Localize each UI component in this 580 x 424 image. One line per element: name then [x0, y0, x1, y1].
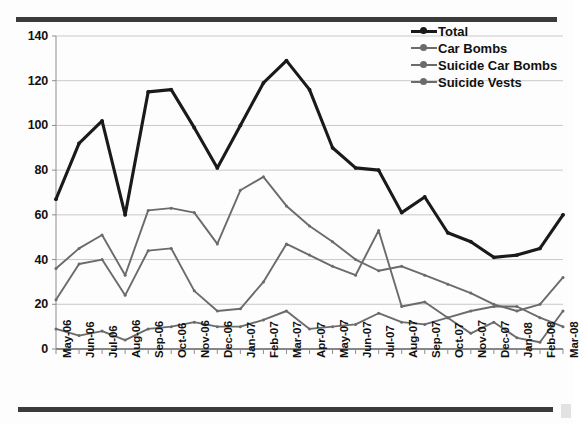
x-axis-tick-jan-08: Jan-08: [522, 322, 534, 358]
legend-label: Suicide Vests: [438, 76, 522, 89]
legend-item-suicide-car-bombs[interactable]: Suicide Car Bombs: [411, 57, 557, 73]
series-line-suicide-car-bombs: [55, 229, 565, 328]
x-axis-tick-oct-07: Oct-07: [453, 323, 465, 358]
legend-swatch-icon: [411, 25, 437, 37]
x-axis-tick-aug-06: Aug-06: [130, 320, 142, 358]
y-axis-tick-100: 100: [14, 118, 48, 132]
x-axis-tick-nov-07: Nov-07: [476, 320, 488, 358]
x-axis-tick-oct-06: Oct-06: [176, 323, 188, 358]
y-axis-tick-0: 0: [14, 342, 48, 356]
legend-item-car-bombs[interactable]: Car Bombs: [411, 40, 557, 56]
x-axis-tick-jun-07: Jun-07: [361, 322, 373, 358]
legend-label: Car Bombs: [438, 42, 507, 55]
legend-swatch-icon: [411, 42, 437, 54]
x-axis-tick-may-07: May-07: [338, 320, 350, 358]
x-axis-tick-apr-07: Apr-07: [315, 322, 327, 358]
legend-swatch-icon: [411, 76, 437, 88]
series-line-car-bombs: [55, 175, 565, 312]
legend-label: Suicide Car Bombs: [438, 59, 557, 72]
y-axis-tick-40: 40: [14, 253, 48, 267]
y-axis-tick-60: 60: [14, 208, 48, 222]
legend-label: Total: [438, 25, 468, 38]
y-axis-tick-140: 140: [14, 29, 48, 43]
chart-legend: TotalCar BombsSuicide Car BombsSuicide V…: [411, 23, 557, 90]
x-axis-tick-jun-06: Jun-06: [84, 322, 96, 358]
y-axis-tick-80: 80: [14, 163, 48, 177]
x-axis-tick-feb-08: Feb-08: [545, 322, 557, 358]
x-axis-tick-sep-07: Sep-07: [430, 321, 442, 358]
legend-item-suicide-vests[interactable]: Suicide Vests: [411, 74, 557, 90]
x-axis-tick-jul-06: Jul-06: [107, 325, 119, 358]
x-axis-tick-nov-06: Nov-06: [199, 320, 211, 358]
x-axis-tick-jul-07: Jul-07: [384, 325, 396, 358]
legend-swatch-icon: [411, 59, 437, 71]
x-axis-tick-mar-08: Mar-08: [568, 322, 580, 358]
x-axis-tick-jan-07: Jan-07: [245, 322, 257, 358]
legend-item-total[interactable]: Total: [411, 23, 557, 39]
x-axis-tick-feb-07: Feb-07: [268, 322, 280, 358]
x-axis-tick-may-06: May-06: [61, 320, 73, 358]
x-axis-tick-mar-07: Mar-07: [291, 322, 303, 358]
y-axis-tick-20: 20: [14, 297, 48, 311]
x-axis-tick-dec-06: Dec-06: [222, 321, 234, 358]
x-axis-tick-dec-07: Dec-07: [499, 321, 511, 358]
y-axis-tick-120: 120: [14, 74, 48, 88]
x-axis-tick-sep-06: Sep-06: [153, 321, 165, 358]
x-axis-tick-aug-07: Aug-07: [407, 320, 419, 358]
